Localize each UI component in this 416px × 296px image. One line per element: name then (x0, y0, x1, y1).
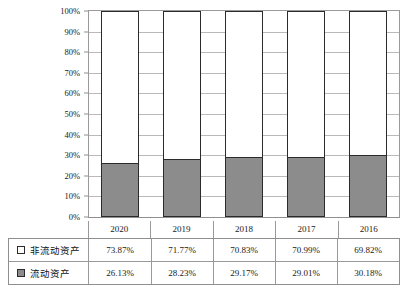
legend-data-table: 非流动资产73.87%71.77%70.83%70.99%69.82%流动资产2… (8, 238, 400, 285)
y-axis-tick-label: 60% (64, 88, 80, 98)
bar-segment-noncurrent-assets[interactable] (287, 11, 325, 157)
bar-segment-noncurrent-assets[interactable] (349, 11, 387, 155)
y-axis-tick-label: 90% (64, 27, 80, 37)
table-cell: 28.23% (151, 262, 213, 284)
table-row: 非流动资产73.87%71.77%70.83%70.99%69.82% (9, 239, 399, 261)
plot-area (88, 10, 400, 218)
bar-slot (89, 11, 151, 217)
y-axis-tick-label: 70% (64, 68, 80, 78)
table-cell: 73.87% (89, 239, 151, 261)
stacked-bar-chart: 100%90%80%70%60%50%40%30%20%10%0% 202020… (0, 0, 416, 222)
table-cell: 30.18% (337, 262, 399, 284)
y-axis-tick-label: 0% (69, 212, 80, 222)
bar-slot (275, 11, 337, 217)
bar-segment-noncurrent-assets[interactable] (163, 11, 201, 159)
table-cell: 69.82% (337, 239, 399, 261)
y-axis-tick-label: 100% (60, 6, 80, 16)
table-cell: 70.83% (213, 239, 275, 261)
bar-segment-current-assets[interactable] (287, 157, 325, 217)
stacked-bar[interactable] (101, 11, 139, 217)
table-cell: 71.77% (151, 239, 213, 261)
bar-segment-current-assets[interactable] (101, 163, 139, 217)
table-cell: 29.17% (213, 262, 275, 284)
stacked-bar[interactable] (287, 11, 325, 217)
legend-entry[interactable]: 流动资产 (9, 262, 89, 284)
x-axis-category-row: 20202019201820172016 (88, 219, 400, 238)
y-axis-tick-label: 30% (64, 150, 80, 160)
y-axis-tick-label: 20% (64, 171, 80, 181)
stacked-bar[interactable] (349, 11, 387, 217)
bar-segment-noncurrent-assets[interactable] (225, 11, 263, 157)
x-axis-label-2018: 2018 (213, 219, 275, 238)
stacked-bar[interactable] (163, 11, 201, 217)
bar-segment-current-assets[interactable] (349, 155, 387, 217)
bar-slot (337, 11, 399, 217)
legend-label: 非流动资产 (30, 243, 80, 257)
table-cell: 29.01% (275, 262, 337, 284)
x-axis-label-2019: 2019 (150, 219, 212, 238)
legend-swatch-icon (17, 269, 25, 277)
table-row: 流动资产26.13%28.23%29.17%29.01%30.18% (9, 261, 399, 284)
bar-slot (151, 11, 213, 217)
table-cell: 26.13% (89, 262, 151, 284)
stacked-bar[interactable] (225, 11, 263, 217)
bar-segment-noncurrent-assets[interactable] (101, 11, 139, 163)
bar-slot (213, 11, 275, 217)
x-axis-label-2016: 2016 (338, 219, 400, 238)
table-value-group: 73.87%71.77%70.83%70.99%69.82% (89, 239, 399, 261)
legend-entry[interactable]: 非流动资产 (9, 239, 89, 261)
x-axis-label-2020: 2020 (88, 219, 150, 238)
legend-label: 流动资产 (30, 266, 70, 280)
chart-page: 100%90%80%70%60%50%40%30%20%10%0% 202020… (0, 0, 416, 296)
bar-segment-current-assets[interactable] (225, 157, 263, 217)
legend-swatch-icon (17, 246, 25, 254)
y-axis-tick-label: 40% (64, 130, 80, 140)
y-axis-tick-label: 50% (64, 109, 80, 119)
y-axis-tick-label: 10% (64, 191, 80, 201)
y-axis: 100%90%80%70%60%50%40%30%20%10%0% (0, 10, 86, 218)
table-cell: 70.99% (275, 239, 337, 261)
x-axis-label-2017: 2017 (275, 219, 337, 238)
table-value-group: 26.13%28.23%29.17%29.01%30.18% (89, 262, 399, 284)
bar-segment-current-assets[interactable] (163, 159, 201, 217)
y-axis-tick-label: 80% (64, 47, 80, 57)
